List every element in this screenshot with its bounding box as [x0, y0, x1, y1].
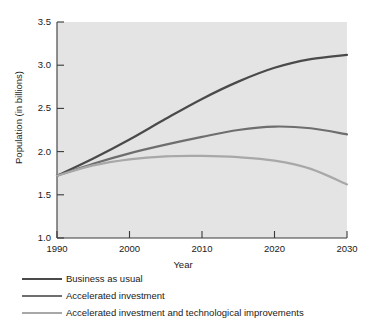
- legend-item[interactable]: Accelerated investment: [0, 287, 366, 304]
- legend-line-swatch: [22, 295, 62, 297]
- y-tick-label: 2.0: [25, 146, 51, 157]
- legend-label: Accelerated investment: [66, 290, 165, 301]
- x-axis-label: Year: [0, 259, 366, 270]
- population-projection-chart: Population (in billions) Year 1.01.52.02…: [0, 0, 366, 328]
- y-tick-label: 1.0: [25, 232, 51, 243]
- legend-line-swatch: [22, 278, 62, 280]
- x-tick-label: 2020: [255, 243, 295, 254]
- x-tick-label: 2010: [182, 243, 222, 254]
- legend-item[interactable]: Accelerated investment and technological…: [0, 304, 366, 321]
- y-tick-label: 1.5: [25, 189, 51, 200]
- y-tick-label: 3.0: [25, 59, 51, 70]
- legend-label: Accelerated investment and technological…: [66, 307, 304, 318]
- legend-item[interactable]: Business as usual: [0, 270, 366, 287]
- y-axis-label: Population (in billions): [13, 48, 24, 188]
- x-tick-label: 2030: [327, 243, 366, 254]
- x-tick-label: 1990: [37, 243, 77, 254]
- x-tick-label: 2000: [110, 243, 150, 254]
- chart-legend: Business as usualAccelerated investmentA…: [0, 270, 366, 321]
- plot-background: [57, 22, 347, 238]
- y-tick-label: 3.5: [25, 16, 51, 27]
- y-tick-label: 2.5: [25, 102, 51, 113]
- legend-label: Business as usual: [66, 273, 143, 284]
- legend-line-swatch: [22, 312, 62, 314]
